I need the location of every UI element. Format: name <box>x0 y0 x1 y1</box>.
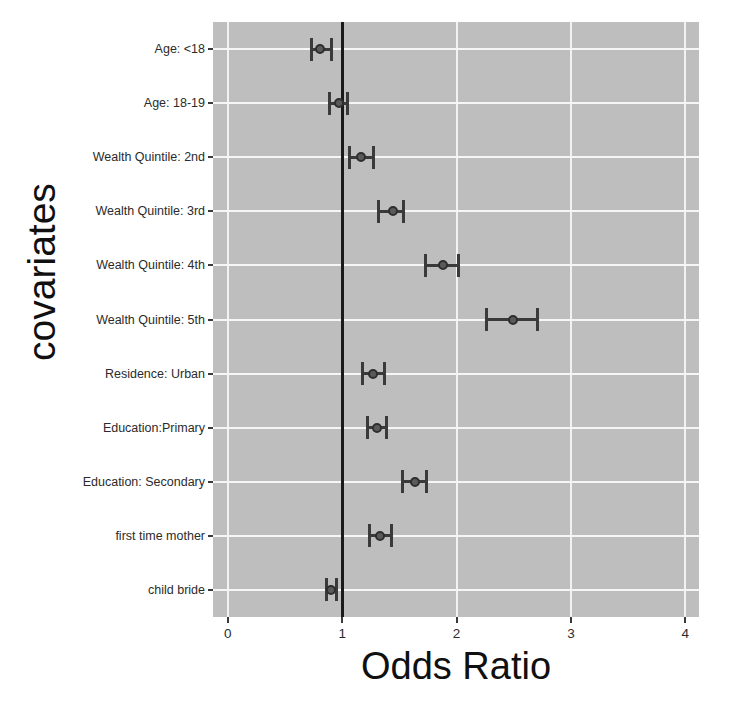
ci-cap-lower <box>310 38 313 61</box>
y-tick-mark <box>208 589 213 591</box>
ci-cap-lower <box>485 308 488 331</box>
y-tick-mark <box>208 373 213 375</box>
y-axis-title: covariates <box>20 142 64 402</box>
ci-cap-upper <box>385 416 388 439</box>
y-tick-label: first time mother <box>115 529 205 543</box>
gridline-y-row <box>213 481 699 483</box>
x-tick-mark-1 <box>341 617 343 623</box>
y-tick-label: Wealth Quintile: 4th <box>96 258 205 272</box>
y-tick-mark <box>208 535 213 537</box>
estimate-point <box>334 98 344 108</box>
x-tick-mark-2 <box>456 617 458 623</box>
y-tick-label: Age: 18-19 <box>144 96 205 110</box>
estimate-point <box>508 315 518 325</box>
x-tick-label-4: 4 <box>682 626 690 641</box>
y-tick-mark <box>208 319 213 321</box>
ci-cap-upper <box>425 470 428 493</box>
x-tick-label-3: 3 <box>567 626 575 641</box>
y-tick-mark <box>208 427 213 429</box>
gridline-y-row <box>213 589 699 591</box>
ci-cap-lower <box>424 254 427 277</box>
x-axis-title: Odds Ratio <box>213 645 699 688</box>
ci-cap-lower <box>368 524 371 547</box>
gridline-y-row <box>213 319 699 321</box>
ci-cap-upper <box>402 200 405 223</box>
plot-panel <box>213 22 699 617</box>
gridline-y-row <box>213 373 699 375</box>
y-tick-label: Residence: Urban <box>105 367 205 381</box>
x-tick-mark-3 <box>570 617 572 623</box>
estimate-point <box>315 44 325 54</box>
gridline-y-row <box>213 48 699 50</box>
estimate-point <box>388 206 398 216</box>
x-tick-mark-0 <box>227 617 229 623</box>
ci-cap-upper <box>346 92 349 115</box>
y-tick-label: Wealth Quintile: 3rd <box>95 204 205 218</box>
ci-cap-lower <box>361 362 364 385</box>
x-tick-mark-4 <box>684 617 686 623</box>
forest-plot-figure: covariates Odds Ratio Age: <18Age: 18-19… <box>0 0 739 703</box>
x-tick-label-1: 1 <box>338 626 346 641</box>
y-tick-mark <box>208 102 213 104</box>
y-tick-label: Wealth Quintile: 2nd <box>93 150 205 164</box>
estimate-point <box>326 585 336 595</box>
estimate-point <box>375 531 385 541</box>
ci-cap-upper <box>390 524 393 547</box>
ci-cap-lower <box>328 92 331 115</box>
gridline-y-row <box>213 210 699 212</box>
ci-cap-lower <box>401 470 404 493</box>
reference-line-at-1 <box>341 22 344 617</box>
gridline-y-row <box>213 156 699 158</box>
estimate-point <box>356 152 366 162</box>
ci-cap-lower <box>366 416 369 439</box>
ci-cap-upper <box>372 146 375 169</box>
y-tick-mark <box>208 210 213 212</box>
estimate-point <box>372 423 382 433</box>
gridline-y-row <box>213 427 699 429</box>
y-tick-label: Education: Secondary <box>83 475 205 489</box>
estimate-point <box>368 369 378 379</box>
y-tick-mark <box>208 481 213 483</box>
ci-cap-lower <box>348 146 351 169</box>
x-tick-label-0: 0 <box>224 626 232 641</box>
ci-cap-upper <box>457 254 460 277</box>
estimate-point <box>438 260 448 270</box>
y-tick-label: Age: <18 <box>155 42 205 56</box>
y-tick-mark <box>208 48 213 50</box>
ci-cap-upper <box>383 362 386 385</box>
ci-cap-upper <box>330 38 333 61</box>
y-tick-mark <box>208 264 213 266</box>
y-tick-label: child bride <box>148 583 205 597</box>
ci-cap-upper <box>536 308 539 331</box>
y-tick-label: Education:Primary <box>103 421 205 435</box>
gridline-y-row <box>213 535 699 537</box>
ci-cap-lower <box>377 200 380 223</box>
y-tick-mark <box>208 156 213 158</box>
gridline-y-row <box>213 102 699 104</box>
x-tick-label-2: 2 <box>453 626 461 641</box>
estimate-point <box>410 477 420 487</box>
y-tick-label: Wealth Quintile: 5th <box>96 313 205 327</box>
